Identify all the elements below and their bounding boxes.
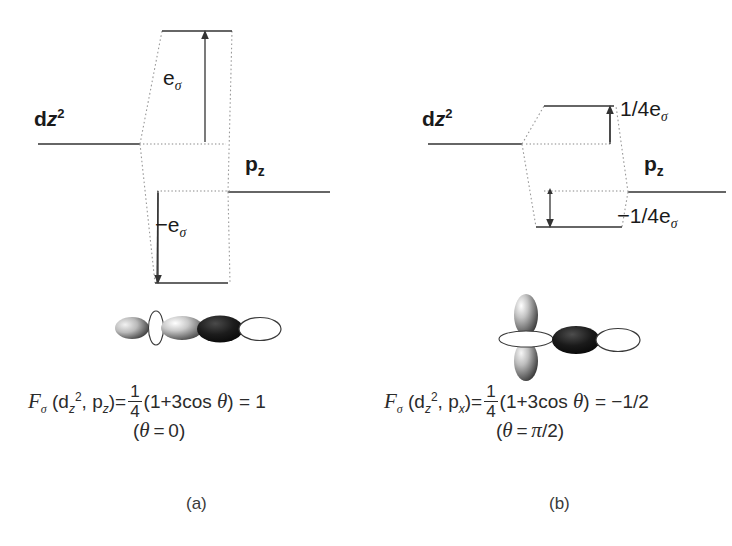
correlation-line-upper-left-b (522, 106, 544, 144)
upper-energy-label-a: eσ (163, 65, 181, 94)
pz-level-label-a: pz (245, 152, 265, 179)
correlation-line-lower-left-a (140, 144, 155, 283)
orbital-picture-b (490, 292, 654, 384)
figure-root: dz2 pz eσ −eσ (0, 0, 732, 546)
panel-b: dz2 pz 1/4eσ −1/4eσ (366, 0, 732, 546)
lower-energy-label-a: −eσ (155, 212, 186, 241)
pz-level-label-b: pz (644, 152, 664, 179)
px-white-lobe-b (596, 329, 640, 352)
orbital-picture-a (116, 296, 286, 360)
dz2-level-label-a: dz2 (34, 106, 65, 131)
lower-energy-label-b: −1/4eσ (617, 203, 677, 232)
angle-note-b: (θ = π/2) (496, 418, 564, 443)
panel-a: dz2 pz eσ −eσ (0, 0, 366, 546)
correlation-line-lower-left-b (522, 144, 536, 227)
upper-energy-label-b: 1/4eσ (620, 96, 668, 125)
panel-b-energy-diagram (366, 0, 732, 546)
caption-a: (a) (186, 494, 207, 514)
correlation-line-upper-left-a (140, 31, 162, 144)
formula-b: Fσ (dz2, px)=14(1+3cos θ) = −1/2 (384, 384, 649, 422)
angle-note-a: (θ = 0) (133, 418, 185, 443)
correlation-line-lower-right-a (228, 192, 230, 283)
dz2-right-lobe-a (161, 316, 203, 340)
panel-a-energy-diagram (0, 0, 366, 546)
dz2-torus-b (499, 331, 553, 347)
correlation-line-upper-right-a (228, 31, 232, 192)
caption-b: (b) (549, 494, 570, 514)
pz-dark-lobe-a (197, 316, 243, 343)
formula-a: Fσ (dz2, pz)=14(1+3cos θ) = 1 (28, 384, 266, 422)
pz-white-lobe-a (239, 318, 281, 341)
px-dark-lobe-b (552, 326, 600, 354)
dz2-left-lobe-a (115, 317, 149, 339)
dz2-level-label-b: dz2 (422, 106, 453, 131)
dz2-upper-lobe-b (514, 294, 538, 336)
